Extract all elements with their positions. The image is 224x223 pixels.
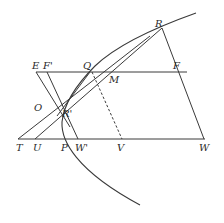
label-F-prime: F' — [42, 60, 53, 71]
label-P: P — [60, 142, 68, 153]
line-U-R — [35, 28, 162, 139]
label-F: F — [172, 60, 181, 71]
label-R: R — [154, 18, 163, 29]
label-M: M — [108, 74, 120, 85]
line-T-R — [18, 36, 150, 139]
geometric-diagram: R E F' Q M F O R' T U P W' V W — [0, 0, 224, 223]
curve — [62, 13, 196, 205]
label-V: V — [117, 142, 126, 153]
label-R-prime: R' — [61, 108, 72, 119]
label-W-prime: W' — [75, 142, 88, 153]
line-R-W — [162, 28, 204, 139]
label-Q: Q — [83, 60, 91, 71]
label-W: W — [199, 142, 210, 153]
label-O: O — [34, 102, 42, 113]
label-E: E — [31, 60, 40, 71]
label-T: T — [16, 142, 24, 153]
label-U: U — [33, 142, 42, 153]
